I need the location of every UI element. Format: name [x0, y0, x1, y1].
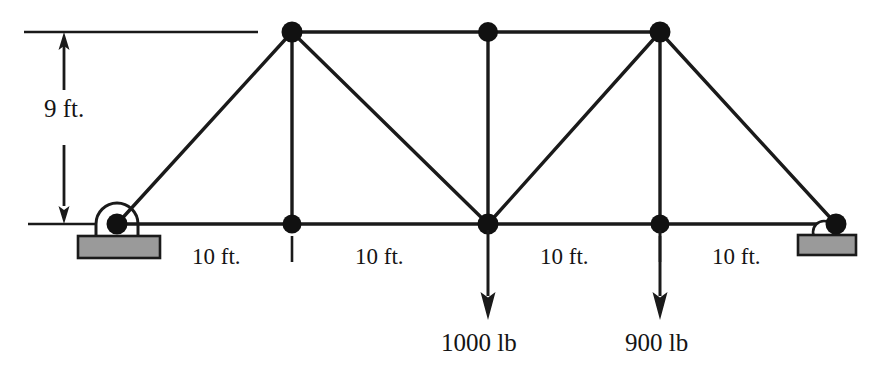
span-label-4: 10 ft.: [712, 245, 761, 268]
span-label-2: 10 ft.: [355, 245, 404, 268]
span-label-3: 10 ft.: [540, 245, 589, 268]
height-dimension-arrowhead-down: [59, 206, 70, 224]
joint-G: [478, 22, 498, 42]
joint-E: [826, 214, 847, 235]
span-label-1: 10 ft.: [192, 245, 241, 268]
joint-F: [282, 22, 303, 43]
member-diagonal-C-H: [488, 32, 660, 224]
truss-joints: [107, 22, 847, 235]
roller-support-plate: [798, 235, 856, 255]
load-label-900lb: 900 lb: [625, 330, 688, 355]
truss-members: [117, 32, 836, 224]
joint-B: [283, 215, 302, 234]
joint-H: [650, 22, 671, 43]
truss-drawing: [0, 0, 894, 378]
member-diagonal-F-C: [292, 32, 488, 224]
span-tick-marks: [292, 236, 660, 262]
member-diagonal-A-F: [117, 32, 292, 224]
pin-support-plate: [78, 236, 160, 258]
height-dimension-label: 9 ft.: [44, 96, 84, 121]
joint-A: [107, 214, 128, 235]
truss-diagram-canvas: 9 ft. 10 ft. 10 ft. 10 ft. 10 ft. 1000 l…: [0, 0, 894, 378]
load-arrow-1000lb: [481, 230, 496, 320]
load-label-1000lb: 1000 lb: [441, 330, 517, 355]
member-diagonal-H-E: [660, 32, 836, 224]
